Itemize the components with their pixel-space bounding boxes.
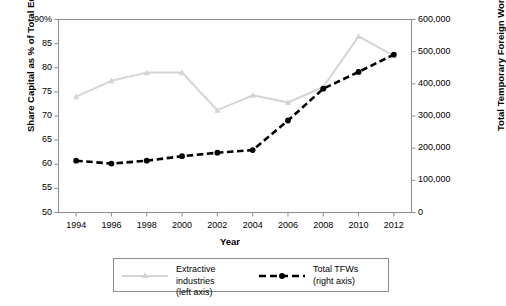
y-tick-left: 65	[18, 134, 52, 144]
series-line-1	[76, 55, 394, 164]
x-tick: 2012	[372, 220, 416, 230]
series-marker-1	[109, 161, 115, 167]
series-marker-1	[320, 86, 326, 92]
series-marker-1	[73, 158, 79, 164]
series-marker-0	[355, 33, 361, 39]
y-tick-left: 80	[18, 62, 52, 72]
legend-label-tfws: Total TFWs	[313, 264, 358, 276]
legend-label-extractive: Extractive industries	[176, 264, 252, 287]
legend-swatch-tfws	[259, 271, 305, 281]
y-tick-right: 400,000	[418, 78, 478, 88]
y-tick-left: 70	[18, 110, 52, 120]
series-marker-1	[391, 52, 397, 58]
y-tick-right: 600,000	[418, 14, 478, 24]
right-axis-title: Total Temporary Foreign Workers	[495, 0, 506, 156]
y-tick-left: 90%	[18, 14, 52, 24]
y-tick-right: 0	[418, 207, 478, 217]
y-tick-right: 300,000	[418, 110, 478, 120]
y-tick-right: 200,000	[418, 142, 478, 152]
y-tick-right: 100,000	[418, 174, 478, 184]
series-marker-1	[285, 118, 291, 124]
series-line-0	[76, 36, 394, 110]
legend-item-tfws[interactable]: Total TFWs (right axis)	[259, 264, 384, 288]
series-marker-1	[250, 147, 256, 153]
legend-swatch-extractive	[122, 271, 168, 281]
chart-legend: Extractive industries (left axis) Total …	[113, 258, 389, 292]
series-marker-1	[214, 150, 220, 156]
y-tick-left: 75	[18, 86, 52, 96]
y-tick-left: 85	[18, 38, 52, 48]
y-tick-left: 60	[18, 158, 52, 168]
x-axis-title: Year	[0, 236, 460, 247]
legend-sublabel-tfws: (right axis)	[313, 276, 358, 288]
y-tick-right: 500,000	[418, 46, 478, 56]
y-tick-left: 50	[18, 207, 52, 217]
series-marker-1	[356, 69, 362, 75]
series-marker-1	[144, 158, 150, 164]
y-tick-left: 55	[18, 182, 52, 192]
series-marker-1	[179, 153, 185, 159]
legend-item-extractive[interactable]: Extractive industries (left axis)	[122, 264, 252, 288]
legend-sublabel-extractive: (left axis)	[176, 287, 252, 299]
